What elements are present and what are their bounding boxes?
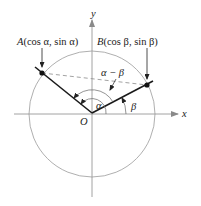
point-a-label: A(cos α, sin α) xyxy=(16,36,79,48)
angle-difference-label: α − β xyxy=(101,67,125,78)
chord-ab xyxy=(42,73,147,85)
angle-alpha-label: α xyxy=(96,100,102,111)
angle-beta-label: β xyxy=(130,101,137,112)
point-b xyxy=(144,82,149,87)
y-axis-label: y xyxy=(90,8,96,19)
angle-beta-arc xyxy=(122,98,126,114)
pointer-difference-arrow xyxy=(110,79,116,90)
x-axis-label: x xyxy=(181,108,187,119)
angle-difference-arc xyxy=(74,90,113,102)
origin-label: O xyxy=(80,116,88,127)
unit-circle-diagram: A(cos α, sin α) B(cos β, sin β) α − β α … xyxy=(0,0,201,206)
point-b-label: B(cos β, sin β) xyxy=(97,36,158,48)
point-a xyxy=(39,70,44,75)
